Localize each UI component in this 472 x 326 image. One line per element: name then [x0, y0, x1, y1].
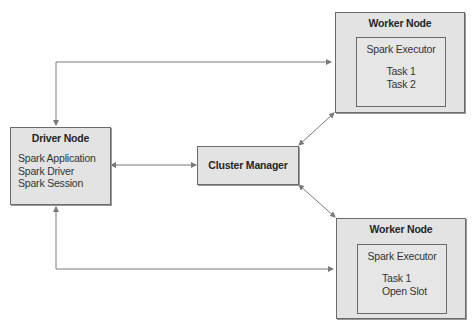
spark-executor-top-title: Spark Executor [357, 43, 445, 56]
spark-executor-bottom-tasks: Task 1 Open Slot [382, 272, 427, 297]
worker-node-top-title: Worker Node [336, 17, 464, 29]
driver-node-items: Spark Application Spark Driver Spark Ses… [18, 152, 96, 190]
edge-driver-worker-bottom [56, 207, 333, 269]
spark-executor-bottom-title: Spark Executor [358, 250, 446, 263]
cluster-manager-node: Cluster Manager [197, 146, 299, 185]
driver-item: Spark Session [18, 177, 96, 190]
edge-cluster-manager-worker-top [299, 113, 334, 145]
worker-node-bottom: Worker Node Spark Executor Task 1 Open S… [336, 218, 466, 319]
task-item: Task 1 [382, 272, 427, 285]
edge-cluster-manager-worker-bottom [299, 185, 335, 217]
driver-item: Spark Driver [18, 165, 96, 178]
edge-driver-worker-top [56, 62, 331, 125]
spark-executor-top: Spark Executor Task 1 Task 2 [356, 37, 446, 107]
worker-node-bottom-title: Worker Node [337, 223, 465, 235]
spark-executor-top-tasks: Task 1 Task 2 [357, 65, 445, 90]
cluster-manager-title: Cluster Manager [198, 159, 298, 171]
spark-executor-bottom: Spark Executor Task 1 Open Slot [357, 244, 447, 314]
worker-node-top: Worker Node Spark Executor Task 1 Task 2 [335, 12, 465, 113]
driver-item: Spark Application [18, 152, 96, 165]
driver-node: Driver Node Spark Application Spark Driv… [10, 127, 111, 205]
task-item: Open Slot [382, 285, 427, 298]
task-item: Task 1 [357, 65, 445, 78]
task-item: Task 2 [357, 78, 445, 91]
driver-node-title: Driver Node [11, 132, 110, 144]
